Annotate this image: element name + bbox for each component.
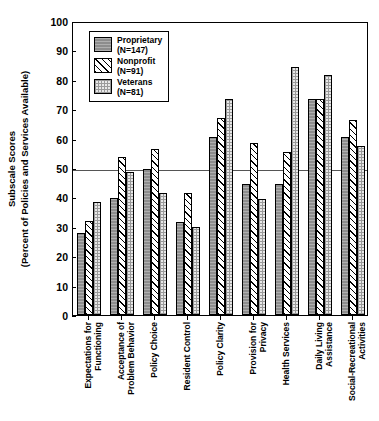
legend-item[interactable]: Nonprofit(N=91): [94, 57, 162, 76]
y-axis-title: Subscale Scores (Percent of Policies and…: [0, 22, 36, 316]
legend-label: Veterans(N=81): [117, 78, 152, 97]
chart-figure: Subscale Scores (Percent of Policies and…: [0, 0, 379, 421]
x-axis-label-line1: Acceptance of: [116, 322, 126, 380]
x-tick-mark: [253, 316, 254, 320]
legend-label: Proprietary(N=147): [117, 36, 162, 55]
x-axis-label-line2: Problem Behavior: [126, 322, 136, 395]
x-axis-label-line1: Social-Recreational: [347, 322, 357, 401]
bar[interactable]: [217, 118, 225, 315]
y-tick-mark: [72, 316, 76, 317]
y-axis-ticks: 0102030405060708090100: [38, 0, 68, 421]
bar[interactable]: [308, 99, 316, 315]
y-tick-label: 60: [44, 134, 68, 146]
y-tick-label: 80: [44, 75, 68, 87]
y-tick-mark: [72, 228, 76, 229]
bar[interactable]: [357, 146, 365, 315]
bar[interactable]: [275, 184, 283, 315]
x-tick-mark: [88, 316, 89, 320]
x-tick-mark: [187, 316, 188, 320]
bar[interactable]: [93, 202, 101, 315]
legend: Proprietary(N=147)Nonprofit(N=91)Veteran…: [89, 31, 169, 102]
bar[interactable]: [118, 157, 126, 315]
y-tick-label: 90: [44, 45, 68, 57]
y-tick-mark: [72, 169, 76, 170]
bar[interactable]: [184, 193, 192, 315]
bar[interactable]: [324, 75, 332, 315]
x-tick-mark: [352, 316, 353, 320]
x-axis-label-line1: Health Services: [281, 322, 291, 385]
x-axis-label-line1: Policy Choice: [149, 322, 159, 378]
y-axis-title-line2: (Percent of Policies and Services Availa…: [18, 71, 29, 267]
legend-swatch: [94, 58, 112, 73]
bar-group: [172, 23, 205, 315]
bar[interactable]: [316, 99, 324, 315]
x-tick-mark: [319, 316, 320, 320]
legend-series-count: (N=147): [117, 46, 162, 56]
x-axis-label-line2: Assistance: [324, 322, 334, 370]
bar[interactable]: [85, 221, 93, 315]
bar[interactable]: [143, 169, 151, 315]
y-tick-mark: [72, 198, 76, 199]
bar-group: [205, 23, 238, 315]
x-tick-mark: [286, 316, 287, 320]
x-axis-label-line1: Resident Control: [182, 322, 192, 390]
bar[interactable]: [258, 199, 266, 315]
bar[interactable]: [126, 172, 134, 315]
bar[interactable]: [242, 184, 250, 315]
x-axis-label-line2: Activities: [357, 322, 367, 401]
x-axis-label-line1: Daily Living: [314, 322, 324, 370]
bar[interactable]: [349, 120, 357, 316]
y-tick-label: 30: [44, 222, 68, 234]
y-tick-label: 0: [44, 310, 68, 322]
bar-group: [270, 23, 303, 315]
y-tick-mark: [72, 51, 76, 52]
bar[interactable]: [341, 137, 349, 315]
plot-area: Proprietary(N=147)Nonprofit(N=91)Veteran…: [72, 22, 368, 316]
x-axis-label: Social-RecreationalActivities: [347, 322, 379, 336]
legend-series-count: (N=91): [117, 67, 155, 77]
y-tick-label: 100: [44, 16, 68, 28]
x-axis-label-line1: Expectations for: [83, 322, 93, 389]
bar[interactable]: [209, 137, 217, 315]
x-tick-mark: [154, 316, 155, 320]
x-tick-mark: [121, 316, 122, 320]
bar[interactable]: [192, 227, 200, 315]
legend-swatch: [94, 37, 112, 52]
x-axis-label-line1: Policy Clarity: [215, 322, 225, 376]
bar[interactable]: [225, 99, 233, 315]
bar-group: [336, 23, 369, 315]
x-tick-mark: [220, 316, 221, 320]
y-tick-mark: [72, 287, 76, 288]
y-tick-label: 70: [44, 104, 68, 116]
legend-series-count: (N=81): [117, 88, 152, 98]
legend-label: Nonprofit(N=91): [117, 57, 155, 76]
y-axis-title-line1: Subscale Scores: [6, 131, 17, 207]
legend-item[interactable]: Proprietary(N=147): [94, 36, 162, 55]
bar-group: [237, 23, 270, 315]
bar[interactable]: [77, 233, 85, 315]
x-axis-label-line2: Functioning: [93, 322, 103, 389]
y-tick-mark: [72, 257, 76, 258]
bar[interactable]: [291, 67, 299, 315]
y-tick-mark: [72, 110, 76, 111]
bar-group: [303, 23, 336, 315]
bar[interactable]: [250, 143, 258, 315]
bar[interactable]: [176, 222, 184, 315]
bar[interactable]: [283, 152, 291, 315]
y-tick-label: 10: [44, 281, 68, 293]
x-axis-label-line1: Provision for: [248, 322, 258, 374]
y-tick-mark: [72, 140, 76, 141]
bar[interactable]: [110, 198, 118, 315]
legend-item[interactable]: Veterans(N=81): [94, 78, 162, 97]
legend-swatch: [94, 79, 112, 94]
y-tick-label: 50: [44, 163, 68, 175]
x-axis-label-line2: Privacy: [258, 322, 268, 374]
figure-caption: [18, 408, 368, 419]
bar[interactable]: [159, 193, 167, 315]
y-tick-label: 40: [44, 192, 68, 204]
y-tick-mark: [72, 22, 76, 23]
bar[interactable]: [151, 149, 159, 315]
y-tick-mark: [72, 81, 76, 82]
y-tick-label: 20: [44, 251, 68, 263]
